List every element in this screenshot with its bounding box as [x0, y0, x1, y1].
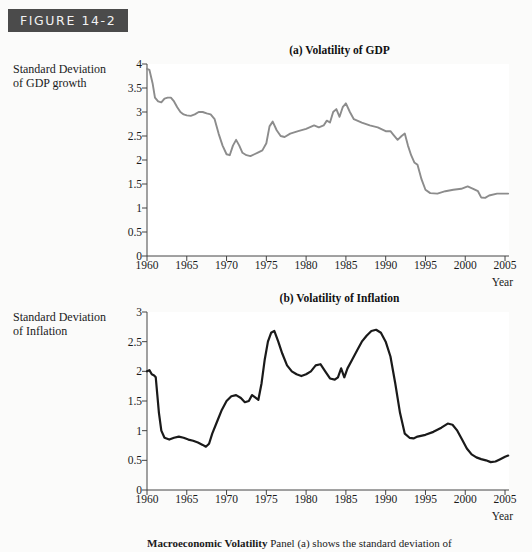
- data-series-line: [147, 330, 508, 462]
- y-tick-label: 2.5: [128, 336, 142, 348]
- y-tick-label: 1: [136, 202, 142, 214]
- chart-canvas: [147, 64, 509, 256]
- x-tick-label: 1990: [374, 493, 397, 505]
- panel-a-y-axis-caption: Standard Deviation of GDP growth: [13, 62, 139, 90]
- x-tick-label: 1995: [414, 259, 437, 271]
- y-tick-label: 2: [136, 154, 142, 166]
- panel-b-y-axis-caption-line1: Standard Deviation: [13, 310, 139, 324]
- figure-tag-bar: FIGURE 14-2: [8, 9, 128, 32]
- panel-b-title: (b) Volatility of Inflation: [147, 292, 532, 304]
- y-tick-label: 3.5: [128, 82, 142, 94]
- y-tick-label: 2: [136, 365, 142, 377]
- y-tick-label: 4: [136, 58, 142, 70]
- chart-canvas: [147, 312, 509, 490]
- y-tick-label: 0.5: [128, 226, 142, 238]
- x-tick-label: 1970: [215, 259, 238, 271]
- x-tick-label: 1960: [136, 493, 159, 505]
- y-tick-label: 3: [136, 306, 142, 318]
- panel-b-x-axis-name: Year: [492, 510, 513, 522]
- panel-a-y-axis-caption-line1: Standard Deviation: [13, 62, 139, 76]
- panel-volatility-of-inflation: (b) Volatility of Inflation Standard Dev…: [0, 288, 532, 533]
- figure-caption-body: Panel (a) shows the standard deviation o…: [270, 537, 451, 549]
- x-tick-label: 2000: [454, 259, 477, 271]
- x-tick-label: 1975: [255, 259, 278, 271]
- y-tick-label: 1.5: [128, 178, 142, 190]
- y-tick-label: 0.5: [128, 454, 142, 466]
- panel-b-plot-area: Year 00.511.522.531960196519701975198019…: [147, 312, 509, 490]
- x-tick-label: 2000: [454, 493, 477, 505]
- y-tick-label: 3: [136, 106, 142, 118]
- x-tick-label: 1960: [136, 259, 159, 271]
- x-tick-label: 1975: [255, 493, 278, 505]
- figure-tag-label: FIGURE 14-2: [20, 13, 116, 28]
- panel-a-title: (a) Volatility of GDP: [147, 44, 532, 56]
- figure-caption-title: Macroeconomic Volatility: [147, 537, 267, 549]
- data-series-line: [147, 69, 508, 198]
- panel-b-y-axis-caption-line2: of Inflation: [13, 324, 139, 338]
- x-tick-label: 1990: [374, 259, 397, 271]
- y-tick-label: 1: [136, 425, 142, 437]
- y-tick-label: 2.5: [128, 130, 142, 142]
- panel-a-y-axis-caption-line2: of GDP growth: [13, 76, 139, 90]
- x-tick-label: 1965: [175, 259, 198, 271]
- x-tick-label: 1965: [175, 493, 198, 505]
- panel-b-y-axis-caption: Standard Deviation of Inflation: [13, 310, 139, 338]
- x-tick-label: 1980: [295, 259, 318, 271]
- x-tick-label: 1985: [334, 493, 357, 505]
- x-tick-label: 1985: [334, 259, 357, 271]
- panel-a-plot-area: Year 00.511.522.533.54196019651970197519…: [147, 64, 509, 256]
- x-tick-label: 2005: [494, 259, 517, 271]
- x-tick-label: 1995: [414, 493, 437, 505]
- x-tick-label: 1970: [215, 493, 238, 505]
- x-tick-label: 1980: [295, 493, 318, 505]
- figure-caption: Macroeconomic Volatility Panel (a) shows…: [147, 537, 527, 552]
- panel-volatility-of-gdp: (a) Volatility of GDP Standard Deviation…: [0, 40, 532, 290]
- panel-a-x-axis-name: Year: [492, 276, 513, 288]
- y-tick-label: 1.5: [128, 395, 142, 407]
- x-tick-label: 2005: [494, 493, 517, 505]
